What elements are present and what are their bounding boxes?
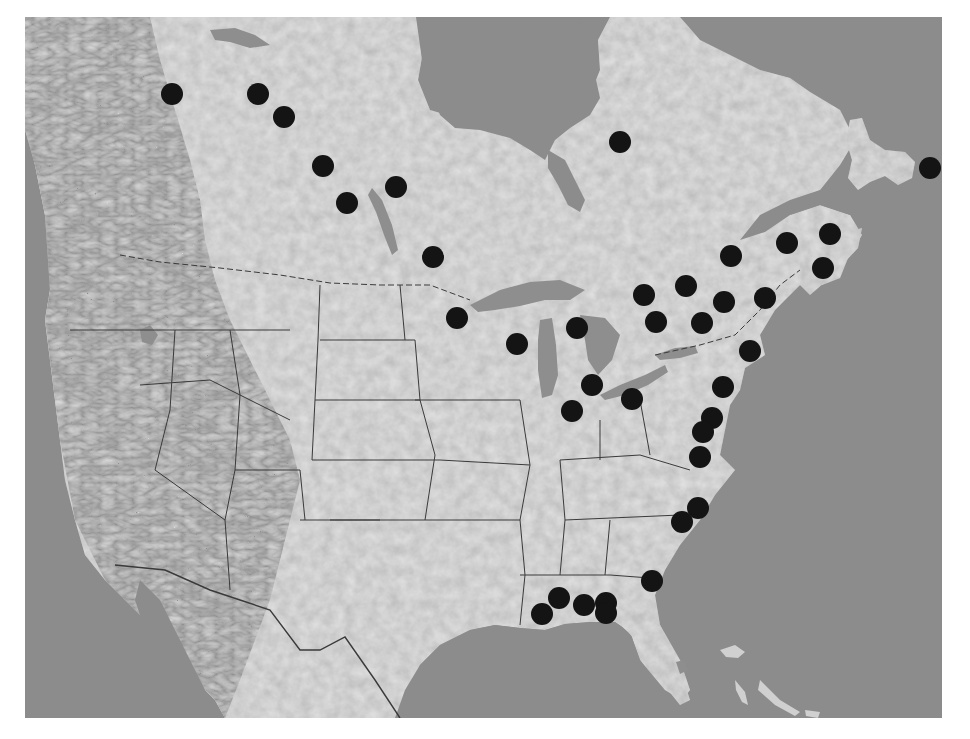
site-marker-gulf-coast[interactable] bbox=[531, 603, 553, 625]
cropped-caption-remnant bbox=[70, 722, 890, 736]
site-marker-new-england[interactable] bbox=[739, 340, 761, 362]
site-marker-central-canada[interactable] bbox=[336, 192, 358, 214]
site-marker-st-lawrence[interactable] bbox=[633, 284, 655, 306]
site-marker-gulf-coast[interactable] bbox=[573, 594, 595, 616]
site-marker-great-lakes[interactable] bbox=[566, 317, 588, 339]
site-marker-atlantic-coast[interactable] bbox=[692, 421, 714, 443]
site-marker-great-lakes[interactable] bbox=[506, 333, 528, 355]
site-marker-great-lakes[interactable] bbox=[561, 400, 583, 422]
site-marker-maritimes[interactable] bbox=[819, 223, 841, 245]
site-marker-maritimes[interactable] bbox=[812, 257, 834, 279]
site-marker-newfoundland[interactable] bbox=[919, 157, 941, 179]
site-marker-st-lawrence[interactable] bbox=[645, 311, 667, 333]
site-marker-st-lawrence[interactable] bbox=[691, 312, 713, 334]
site-marker-atlantic-coast[interactable] bbox=[641, 570, 663, 592]
site-marker-st-lawrence[interactable] bbox=[675, 275, 697, 297]
site-marker-great-lakes[interactable] bbox=[621, 388, 643, 410]
site-marker-st-lawrence[interactable] bbox=[713, 291, 735, 313]
site-marker-quebec[interactable] bbox=[609, 131, 631, 153]
site-marker-maritimes[interactable] bbox=[776, 232, 798, 254]
site-marker-great-lakes[interactable] bbox=[446, 307, 468, 329]
site-marker-new-england[interactable] bbox=[754, 287, 776, 309]
site-marker-gulf-coast[interactable] bbox=[548, 587, 570, 609]
site-marker-northwest-canada[interactable] bbox=[273, 106, 295, 128]
site-marker-central-canada[interactable] bbox=[422, 246, 444, 268]
site-marker-central-canada[interactable] bbox=[312, 155, 334, 177]
site-marker-atlantic-coast[interactable] bbox=[689, 446, 711, 468]
site-marker-northwest-canada[interactable] bbox=[161, 83, 183, 105]
site-marker-northwest-canada[interactable] bbox=[247, 83, 269, 105]
site-marker-great-lakes[interactable] bbox=[581, 374, 603, 396]
site-marker-atlantic-coast[interactable] bbox=[671, 511, 693, 533]
north-america-relief-map[interactable] bbox=[0, 0, 970, 739]
site-marker-central-canada[interactable] bbox=[385, 176, 407, 198]
site-marker-maritimes[interactable] bbox=[720, 245, 742, 267]
site-marker-atlantic-coast[interactable] bbox=[712, 376, 734, 398]
site-marker-gulf-coast[interactable] bbox=[595, 602, 617, 624]
